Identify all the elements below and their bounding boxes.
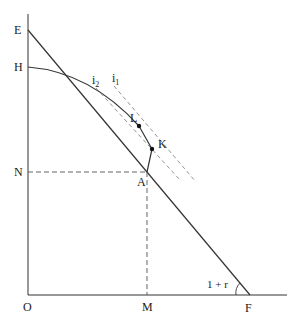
intertemporal-choice-diagram: E H N L K A O M F i2 i1 1 + r xyxy=(0,0,300,321)
label-E: E xyxy=(14,23,21,37)
budget-line-EF xyxy=(28,30,250,295)
label-i1: i1 xyxy=(112,71,119,87)
label-F: F xyxy=(245,301,252,315)
label-angle: 1 + r xyxy=(207,278,228,290)
label-L: L xyxy=(130,111,137,125)
label-i2: i2 xyxy=(92,73,99,89)
label-A: A xyxy=(137,175,146,189)
label-M: M xyxy=(142,300,153,314)
label-H: H xyxy=(14,60,23,74)
indifference-line-i1 xyxy=(114,86,196,182)
point-K xyxy=(150,147,154,151)
angle-arc-F xyxy=(236,283,240,295)
label-O: O xyxy=(23,300,32,314)
label-K: K xyxy=(158,137,167,151)
indifference-line-i2 xyxy=(96,88,180,180)
label-N: N xyxy=(14,165,23,179)
point-L xyxy=(137,124,141,128)
